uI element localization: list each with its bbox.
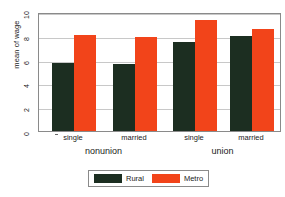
bar-rural-nonunion-married xyxy=(113,64,135,131)
bar-metro-nonunion-married xyxy=(135,37,157,131)
y-tick-label: 0 xyxy=(23,127,31,141)
legend-swatch-metro xyxy=(152,174,180,183)
legend-label: Rural xyxy=(126,174,144,183)
x-axis-tick-labels: singlemarriedsinglemarried xyxy=(38,133,281,145)
x-axis-group-labels: nonunionunion xyxy=(38,146,281,160)
x-tick-label: single xyxy=(63,133,83,142)
y-tick-label: 4 xyxy=(23,79,31,93)
bar-metro-nonunion-single xyxy=(74,35,96,131)
chart-legend: RuralMetro xyxy=(88,170,209,187)
group-label-union: union xyxy=(211,146,233,156)
legend-swatch-rural xyxy=(94,174,122,183)
group-label-nonunion: nonunion xyxy=(85,146,122,156)
y-tick-label: 2 xyxy=(23,103,31,117)
y-tick-label: 10 xyxy=(23,8,31,22)
y-axis-ticks: 0246810 xyxy=(20,14,34,131)
legend-entry-rural: Rural xyxy=(94,174,144,183)
bar-metro-union-single xyxy=(195,20,217,131)
legend-entry-metro: Metro xyxy=(152,174,203,183)
plot-area xyxy=(39,14,280,131)
bar-rural-nonunion-single xyxy=(52,63,74,131)
x-tick-label: married xyxy=(121,133,146,142)
legend-label: Metro xyxy=(184,174,203,183)
x-tick-label: single xyxy=(184,133,204,142)
bars-layer xyxy=(39,14,280,131)
x-tick-label: married xyxy=(238,133,263,142)
bar-metro-union-married xyxy=(252,29,274,131)
bar-rural-union-married xyxy=(230,36,252,131)
bar-rural-union-single xyxy=(173,42,195,131)
y-tick-label: 8 xyxy=(23,32,31,46)
y-tick-label: 6 xyxy=(23,56,31,70)
plot-frame xyxy=(38,13,281,132)
bar-chart: mean of wage 0246810 singlemarriedsingle… xyxy=(0,0,285,197)
